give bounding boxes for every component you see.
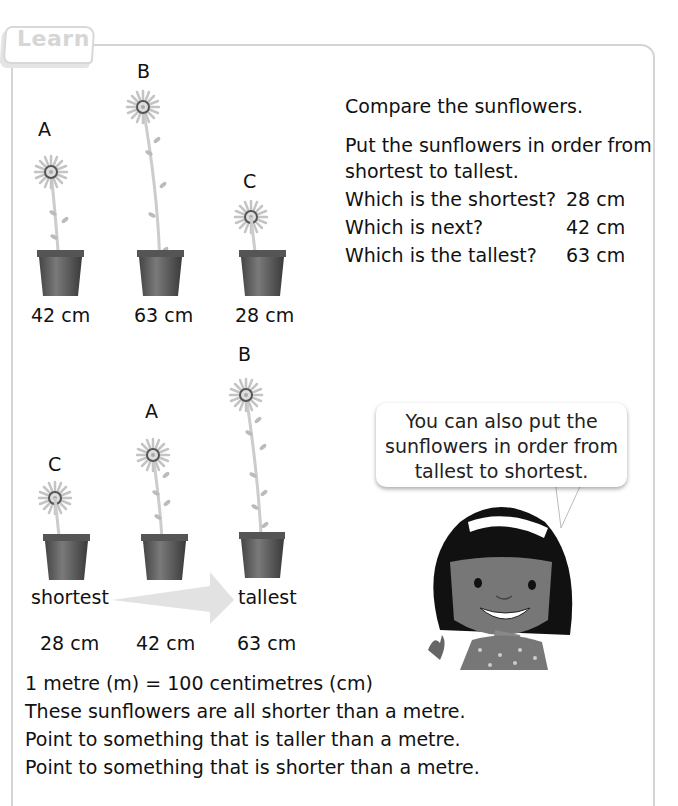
footer-line-2: These sunflowers are all shorter than a … bbox=[25, 700, 466, 722]
ordered-letter-c: C bbox=[48, 453, 61, 475]
question-tallest: Which is the tallest? bbox=[345, 244, 537, 266]
ordered-height-c: 28 cm bbox=[40, 632, 99, 654]
speech-bubble: You can also put the sunflowers in order… bbox=[376, 403, 627, 487]
tallest-label: tallest bbox=[238, 586, 297, 608]
ordered-height-a: 42 cm bbox=[136, 632, 195, 654]
plant-height-c: 28 cm bbox=[235, 304, 294, 326]
arrow-right-icon bbox=[112, 572, 236, 626]
footer-line-4: Point to something that is shorter than … bbox=[25, 756, 480, 778]
answer-tallest: 63 cm bbox=[566, 244, 625, 266]
ordered-letter-a: A bbox=[145, 400, 158, 422]
question-next: Which is next? bbox=[345, 216, 483, 238]
ordered-sunflower-c-icon bbox=[35, 480, 95, 580]
answer-next: 42 cm bbox=[566, 216, 625, 238]
plant-letter-a: A bbox=[38, 118, 51, 140]
plant-letter-c: C bbox=[243, 170, 256, 192]
ordered-sunflower-a-icon bbox=[132, 435, 192, 580]
shortest-label: shortest bbox=[31, 586, 109, 608]
sunflower-b-icon bbox=[125, 85, 185, 300]
footer-line-1: 1 metre (m) = 100 centimetres (cm) bbox=[25, 672, 373, 694]
order-text-line1: Put the sunflowers in order from bbox=[345, 134, 652, 156]
plant-height-b: 63 cm bbox=[134, 304, 193, 326]
compare-text: Compare the sunflowers. bbox=[345, 95, 583, 117]
speech-bubble-line1: You can also put the bbox=[376, 409, 627, 434]
answer-shortest: 28 cm bbox=[566, 188, 625, 210]
girl-character-icon bbox=[420, 500, 580, 670]
ordered-sunflower-b-icon bbox=[225, 375, 285, 580]
learn-tab-label: Learn bbox=[17, 26, 90, 51]
sunflower-a-icon bbox=[25, 150, 85, 300]
ordered-letter-b: B bbox=[238, 343, 251, 365]
speech-bubble-line3: tallest to shortest. bbox=[376, 459, 627, 484]
speech-bubble-line2: sunflowers in order from bbox=[376, 434, 627, 459]
footer-line-3: Point to something that is taller than a… bbox=[25, 728, 461, 750]
sunflower-c-icon bbox=[230, 200, 290, 300]
plant-letter-b: B bbox=[137, 60, 150, 82]
ordered-height-b: 63 cm bbox=[237, 632, 296, 654]
order-text-line2: shortest to tallest. bbox=[345, 160, 519, 182]
plant-height-a: 42 cm bbox=[31, 304, 90, 326]
question-shortest: Which is the shortest? bbox=[345, 188, 556, 210]
